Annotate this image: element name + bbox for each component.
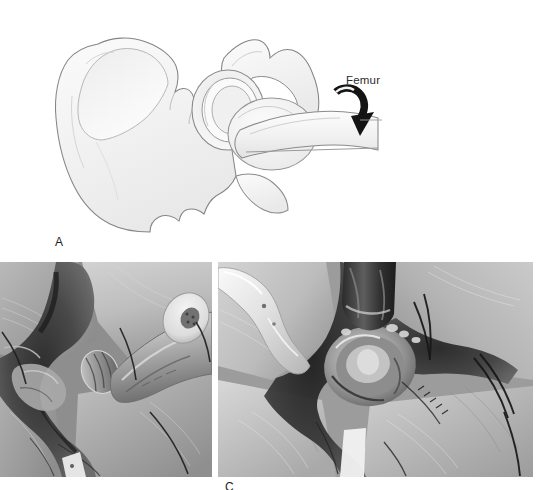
panel-c-photograph — [218, 262, 533, 477]
figure-container: Femur A — [0, 0, 558, 490]
panel-c-photo-content — [218, 262, 533, 477]
femur-label: Femur — [346, 74, 380, 87]
panel-b-photograph — [0, 262, 212, 477]
panel-letter-a: A — [55, 236, 63, 249]
panel-letter-c: C — [225, 481, 234, 490]
vertical-instrument-shaft — [342, 262, 396, 330]
panel-b-photo-content — [0, 262, 212, 477]
pelvis-femur-line-drawing — [0, 0, 558, 258]
ischium-group — [236, 174, 288, 213]
panel-a-illustration: Femur A — [0, 0, 558, 258]
